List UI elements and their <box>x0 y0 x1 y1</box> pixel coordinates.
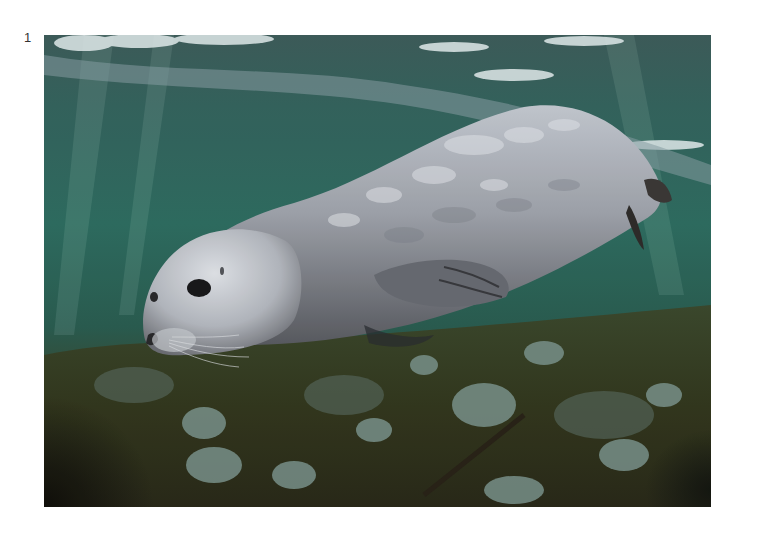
seal-photo-illustration <box>44 35 711 507</box>
seal-photograph <box>44 35 711 507</box>
figure-number: 1 <box>24 30 31 45</box>
